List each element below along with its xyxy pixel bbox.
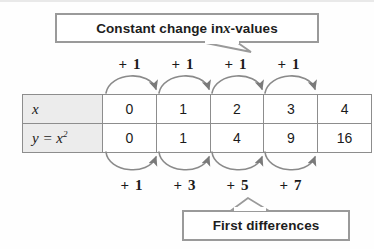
- cell-x-3: 3: [264, 95, 318, 124]
- values-table: x 0 1 2 3 4 y = x2 0 1 4 9 16: [22, 94, 372, 153]
- table-row-x: x 0 1 2 3 4: [23, 95, 372, 124]
- top-difference-label-1: + 1: [107, 56, 153, 73]
- cell-y-4: 16: [318, 124, 372, 153]
- cell-x-1: 1: [156, 95, 210, 124]
- cell-y-0: 0: [103, 124, 157, 153]
- top-difference-label-3: + 1: [213, 56, 259, 73]
- bottom-arrow-1: [106, 152, 156, 170]
- table-row-y: y = x2 0 1 4 9 16: [23, 124, 372, 153]
- figure-canvas: Constant change in x-values + 1 + 1 + 1 …: [0, 0, 374, 249]
- callout-constant-change: Constant change in x-values: [55, 13, 319, 43]
- callout-top-text-after: -values: [231, 21, 278, 36]
- bottom-arrow-4: [265, 152, 315, 170]
- cell-x-0: 0: [103, 95, 157, 124]
- row-label-y-base: y = x: [32, 130, 63, 146]
- top-arrow-3: [212, 76, 262, 93]
- bottom-difference-label-2: + 3: [162, 177, 208, 194]
- bottom-difference-label-4: + 7: [268, 177, 314, 194]
- top-difference-label-4: + 1: [266, 56, 312, 73]
- bottom-arrow-3: [212, 152, 262, 170]
- top-arrow-2: [159, 76, 209, 93]
- cell-y-3: 9: [264, 124, 318, 153]
- callout-top-text-italic: x: [223, 20, 230, 37]
- top-edge-artifact: [0, 0, 374, 2]
- row-label-x: x: [23, 95, 103, 124]
- top-arrow-4: [265, 76, 315, 93]
- callout-top-text-before: Constant change in: [96, 21, 223, 36]
- row-label-y-exponent: 2: [63, 129, 68, 139]
- cell-x-2: 2: [210, 95, 264, 124]
- bottom-difference-label-3: + 5: [215, 177, 261, 194]
- top-arrow-1: [106, 76, 156, 93]
- top-difference-label-2: + 1: [160, 56, 206, 73]
- bottom-arrow-2: [159, 152, 209, 170]
- cell-y-2: 4: [210, 124, 264, 153]
- cell-y-1: 1: [156, 124, 210, 153]
- bottom-difference-label-1: + 1: [109, 177, 155, 194]
- callout-first-differences: First differences: [182, 210, 350, 241]
- cell-x-4: 4: [318, 95, 372, 124]
- callout-bottom-text: First differences: [213, 218, 320, 233]
- row-label-y: y = x2: [23, 124, 103, 153]
